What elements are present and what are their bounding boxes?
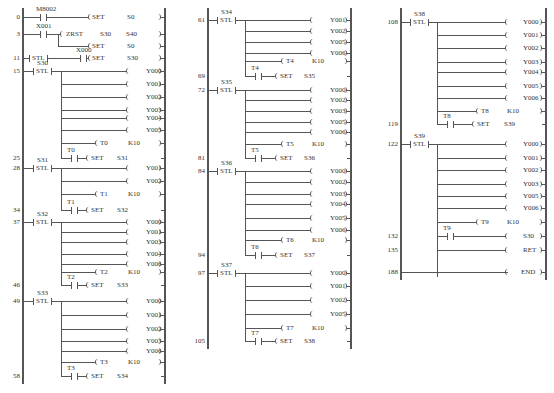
output-wire (437, 170, 505, 171)
rail-end-tick (161, 232, 164, 233)
timer-name: T2 (100, 268, 108, 276)
rail-end-tick (161, 143, 164, 144)
output-wire (61, 301, 126, 302)
wire (437, 124, 447, 125)
contact-icon (71, 373, 72, 380)
output-coil-label: Y003 (523, 58, 539, 66)
wire (52, 168, 61, 169)
timer-preset: K10 (312, 140, 324, 148)
stl-bracket-icon (410, 19, 411, 26)
rail-end-tick (161, 46, 164, 47)
rail-end-tick (347, 194, 350, 195)
wire (262, 158, 275, 159)
output-wire (245, 182, 310, 183)
step-number: 34 (4, 206, 20, 214)
output-wire (245, 111, 310, 112)
branch-bus (437, 144, 438, 277)
output-wire (245, 90, 310, 91)
rail-end-tick (347, 273, 350, 274)
coil-open-icon (126, 219, 130, 225)
step-number: 122 (382, 140, 398, 148)
stl-label: STL (413, 140, 425, 148)
ret-wire (437, 250, 505, 251)
rail-end-tick (347, 76, 350, 77)
rail-end-tick (347, 341, 350, 342)
coil-open-icon (505, 155, 509, 161)
wire (52, 301, 61, 302)
wire (236, 20, 245, 21)
rail-end-tick (347, 111, 350, 112)
rail-end-tick (347, 328, 350, 329)
timer-preset: K10 (312, 236, 324, 244)
contact-label: T2 (67, 273, 75, 281)
step-number: 58 (4, 372, 20, 380)
rail-end-tick (347, 132, 350, 133)
output-wire (245, 122, 310, 123)
rail-end-tick (347, 255, 350, 256)
coil-open-icon (310, 129, 314, 135)
rail-end-tick (542, 196, 545, 197)
wire (22, 301, 33, 302)
branch-bus (245, 20, 246, 77)
rail-end-tick (161, 351, 164, 352)
coil-open-icon (476, 108, 480, 114)
coil-open-icon (310, 39, 314, 45)
wire (454, 236, 505, 237)
coil-open-icon (476, 219, 480, 225)
output-wire (61, 254, 126, 255)
coil-open-icon (95, 140, 99, 146)
coil-open-icon (310, 227, 314, 233)
timer-preset: K10 (128, 190, 140, 198)
output-wire (61, 110, 126, 111)
rail-end-tick (347, 286, 350, 287)
set-operand: S0 (127, 42, 134, 50)
coil-open-icon (505, 193, 509, 199)
rail-end-tick (542, 222, 545, 223)
wire (61, 285, 71, 286)
coil-open-icon (505, 247, 509, 253)
timer-name: T6 (286, 236, 294, 244)
left-power-rail (207, 8, 209, 349)
coil-open-icon (310, 270, 314, 276)
step-number: 3 (4, 30, 20, 38)
rail-end-tick (161, 362, 164, 363)
coil-open-icon (310, 28, 314, 34)
coil-open-icon (126, 127, 130, 133)
output-wire (61, 329, 126, 330)
set-instruction: SET (280, 72, 292, 80)
coil-open-icon (505, 269, 509, 275)
rail-end-tick (542, 72, 545, 73)
wire (400, 144, 410, 145)
set-instruction: SET (91, 372, 103, 380)
contact-label: T5 (251, 146, 259, 154)
end-instruction: END (521, 268, 535, 276)
coil-open-icon (86, 282, 90, 288)
rail-end-tick (161, 97, 164, 98)
coil-open-icon (310, 50, 314, 56)
set-operand: S39 (504, 120, 515, 128)
coil-open-icon (310, 119, 314, 125)
stl-bracket-icon (217, 17, 218, 24)
left-power-rail (22, 8, 24, 384)
rail-end-tick (161, 222, 164, 223)
coil-open-icon (505, 19, 509, 25)
timer-preset: K10 (128, 358, 140, 366)
coil-open-icon (275, 73, 279, 79)
rail-end-tick (347, 20, 350, 21)
wire (47, 17, 88, 18)
coil-open-icon (310, 191, 314, 197)
coil-open-icon (310, 179, 314, 185)
rail-end-tick (542, 158, 545, 159)
zrst-instruction: ZRST (66, 30, 83, 38)
output-coil-label: Y005 (523, 82, 539, 90)
coil-open-icon (281, 141, 285, 147)
wire (454, 124, 472, 125)
coil-open-icon (505, 32, 509, 38)
output-wire (61, 130, 126, 131)
rail-end-tick (542, 111, 545, 112)
contact-label: T6 (251, 243, 259, 251)
coil-open-icon (126, 261, 130, 267)
timer-name: T8 (481, 107, 489, 115)
coil-open-icon (86, 155, 90, 161)
rail-end-tick (161, 17, 164, 18)
